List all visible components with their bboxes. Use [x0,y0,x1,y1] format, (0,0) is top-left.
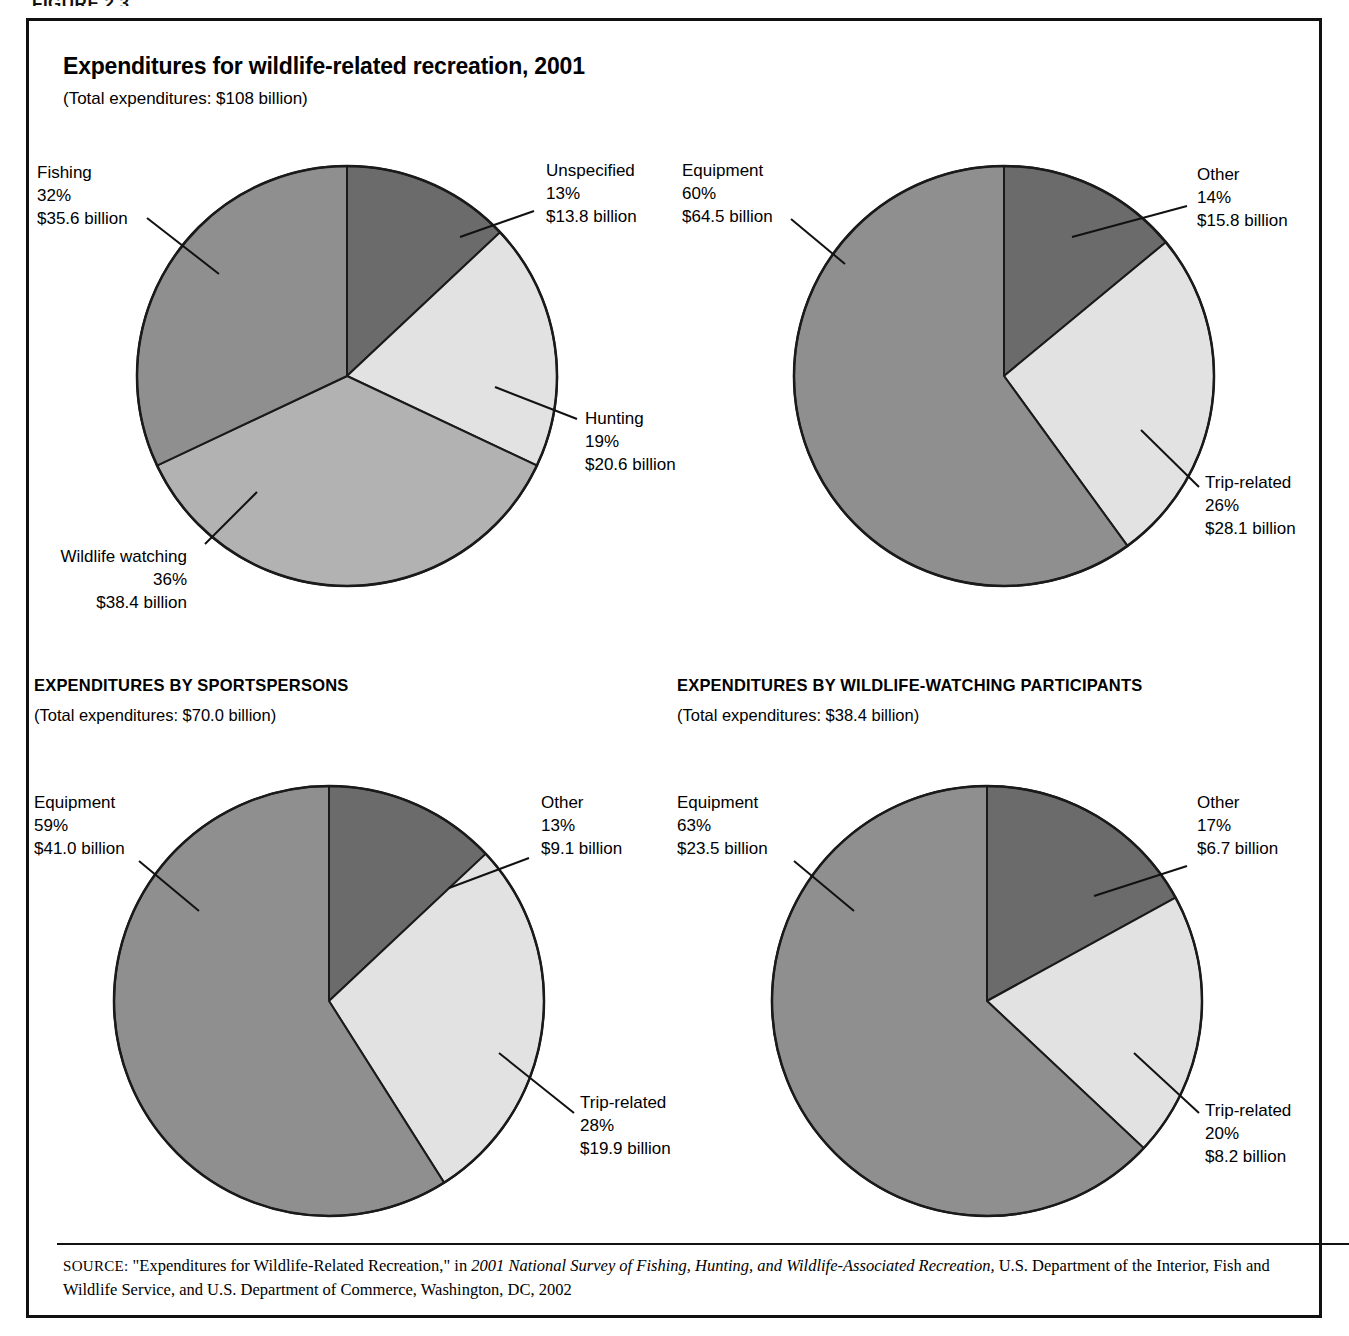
pie-3-label-equipment: Equipment 59% $41.0 billion [34,791,125,860]
slice-label-percent: 28% [580,1114,671,1137]
slice-label-percent: 14% [1197,186,1288,209]
slice-label-name: Equipment [34,791,125,814]
slice-label-value: $23.5 billion [677,837,768,860]
pie-1-label-fishing: Fishing 32% $35.6 billion [37,161,128,230]
pie-1-label-hunting: Hunting 19% $20.6 billion [585,407,676,476]
pie-3-label-trip-related: Trip-related 28% $19.9 billion [580,1091,671,1160]
slice-label-percent: 59% [34,814,125,837]
slice-label-name: Hunting [585,407,676,430]
pie-2-label-equipment: Equipment 60% $64.5 billion [682,159,773,228]
slice-label-name: Equipment [682,159,773,182]
slice-label-name: Other [1197,791,1278,814]
slice-label-value: $35.6 billion [37,207,128,230]
slice-label-value: $8.2 billion [1205,1145,1291,1168]
slice-label-value: $41.0 billion [34,837,125,860]
slice-label-value: $15.8 billion [1197,209,1288,232]
slice-label-name: Other [1197,163,1288,186]
slice-label-value: $64.5 billion [682,205,773,228]
pie-chart-expenditures-by-sportspersons [109,766,549,1236]
slice-label-name: Trip-related [580,1091,671,1114]
slice-label-percent: 32% [37,184,128,207]
slice-label-percent: 17% [1197,814,1278,837]
source-title-italic: 2001 National Survey of Fishing, Hunting… [471,1256,994,1275]
section-subheading-wildlife-watching: (Total expenditures: $38.4 billion) [677,706,919,725]
pie-2-label-trip-related: Trip-related 26% $28.1 billion [1205,471,1296,540]
slice-label-percent: 13% [546,182,637,205]
source-divider [57,1243,1349,1245]
section-heading-sportspersons: EXPENDITURES BY SPORTSPERSONS [34,676,348,695]
slice-label-percent: 60% [682,182,773,205]
slice-label-percent: 36% [29,568,187,591]
pie-1-label-unspecified: Unspecified 13% $13.8 billion [546,159,637,228]
page-subtitle: (Total expenditures: $108 billion) [63,89,308,109]
slice-label-value: $38.4 billion [29,591,187,614]
slice-label-percent: 63% [677,814,768,837]
pie-1-label-wildlife-watching: Wildlife watching 36% $38.4 billion [29,545,187,614]
slice-label-name: Unspecified [546,159,637,182]
slice-label-value: $6.7 billion [1197,837,1278,860]
slice-label-value: $20.6 billion [585,453,676,476]
pie-4-label-trip-related: Trip-related 20% $8.2 billion [1205,1099,1291,1168]
pie-chart-total-expenditures [127,151,567,611]
slice-label-value: $19.9 billion [580,1137,671,1160]
source-label: SOURCE: [63,1258,128,1274]
figure-number: FIGURE 2.3 [32,0,130,6]
slice-label-name: Trip-related [1205,1099,1291,1122]
slice-label-name: Other [541,791,622,814]
slice-label-name: Equipment [677,791,768,814]
slice-label-percent: 19% [585,430,676,453]
section-heading-wildlife-watching: EXPENDITURES BY WILDLIFE-WATCHING PARTIC… [677,676,1142,695]
slice-label-percent: 20% [1205,1122,1291,1145]
slice-label-name: Wildlife watching [29,545,187,568]
slice-label-percent: 26% [1205,494,1296,517]
slice-label-value: $28.1 billion [1205,517,1296,540]
pie-4-label-equipment: Equipment 63% $23.5 billion [677,791,768,860]
section-subheading-sportspersons: (Total expenditures: $70.0 billion) [34,706,276,725]
slice-label-value: $9.1 billion [541,837,622,860]
figure-frame: Expenditures for wildlife-related recrea… [26,18,1322,1318]
slice-label-percent: 13% [541,814,622,837]
pie-4-label-other: Other 17% $6.7 billion [1197,791,1278,860]
slice-label-name: Trip-related [1205,471,1296,494]
page-title: Expenditures for wildlife-related recrea… [63,53,585,80]
pie-chart-all-participants-breakdown [784,151,1224,611]
slice-label-value: $13.8 billion [546,205,637,228]
source-note: SOURCE: "Expenditures for Wildlife-Relat… [63,1254,1303,1302]
pie-3-label-other: Other 13% $9.1 billion [541,791,622,860]
source-text-1: "Expenditures for Wildlife-Related Recre… [128,1256,471,1275]
slice-label-name: Fishing [37,161,128,184]
pie-chart-expenditures-by-wildlife-watching-participants [767,766,1207,1236]
pie-2-label-other: Other 14% $15.8 billion [1197,163,1288,232]
